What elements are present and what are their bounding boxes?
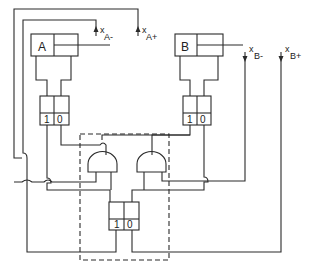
wire-valve-a-port0 [61, 125, 106, 155]
wire-xa-plus-loop [14, 9, 138, 158]
cylinder-b-label: B [181, 40, 189, 54]
svg-text:A-: A- [104, 32, 113, 42]
and-gate-right [137, 152, 166, 190]
valve-b-port0-label: 0 [200, 114, 206, 125]
wire-valve-b-port1-b [152, 135, 190, 155]
wire-b-valve-left [180, 56, 190, 96]
sensor-label-xb-plus: x B+ [285, 44, 301, 61]
wire-a-valve-left [36, 56, 47, 96]
logic-block-boundary [80, 134, 169, 260]
wire-a-valve-right [61, 56, 71, 96]
valve-center-port0-label: 0 [127, 219, 133, 230]
valve-center-port1-label: 1 [114, 219, 120, 230]
sensor-label-xa-minus: x A- [100, 25, 113, 42]
svg-text:B-: B- [254, 51, 263, 61]
logic-circuit-diagram: A B 1 0 1 0 1 0 x A- x A+ x B- x B+ [0, 0, 316, 273]
arrowhead-xb-minus [243, 56, 248, 62]
valve-a-port0-label: 0 [57, 114, 63, 125]
wire-valve-a-port1 [47, 125, 110, 202]
svg-text:B+: B+ [290, 51, 301, 61]
cylinder-a-label: A [38, 40, 46, 54]
wire-b-valve-right [204, 56, 218, 96]
wire-xb-plus [132, 58, 281, 252]
valve-b-port1-label: 1 [187, 114, 193, 125]
svg-text:A+: A+ [146, 32, 157, 42]
sensor-label-xa-plus: x A+ [142, 25, 157, 42]
arrowhead-xa-plus [136, 26, 141, 32]
wire-valve-b-port1 [102, 125, 190, 140]
arrowhead-xb-plus [279, 56, 284, 62]
arrowhead-xa-minus [94, 26, 99, 32]
wire-left-and-input [14, 172, 96, 182]
valve-a-port1-label: 1 [44, 114, 50, 125]
wire-valve-b-port0 [132, 125, 208, 202]
and-gate-left [88, 152, 117, 190]
sensor-label-xb-minus: x B- [249, 44, 263, 61]
